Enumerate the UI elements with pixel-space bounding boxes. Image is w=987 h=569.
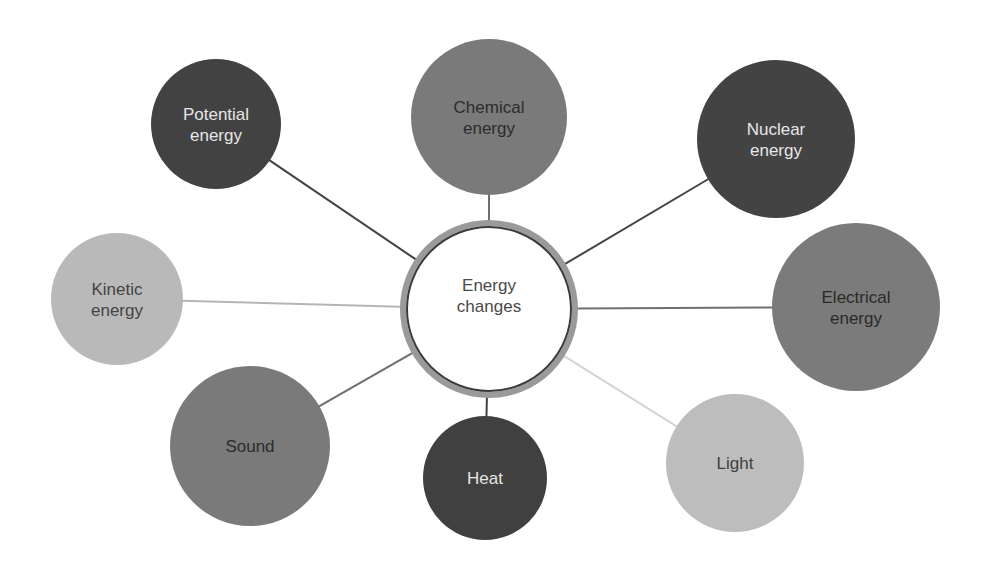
chemical-circle (411, 39, 567, 195)
potential-circle (151, 59, 281, 189)
potential-label-line: energy (190, 126, 242, 145)
kinetic-label-line: energy (91, 301, 143, 320)
center-label-line: Energy (462, 276, 516, 295)
center-node: Energychanges (403, 223, 575, 395)
sound-label-line: Sound (225, 437, 274, 456)
connector-nuclear (565, 178, 710, 264)
energy-changes-diagram: PotentialenergyChemicalenergyNuclearener… (0, 0, 987, 569)
nuclear-circle (697, 60, 855, 218)
connector-electrical (577, 307, 774, 308)
sound-label: Sound (225, 437, 274, 456)
electrical-circle (772, 223, 940, 391)
connector-potential (268, 159, 416, 259)
kinetic-label-line: Kinetic (91, 280, 143, 299)
node-heat: Heat (423, 416, 547, 540)
light-label-line: Light (717, 454, 754, 473)
center-label-line: changes (457, 297, 521, 316)
nuclear-label-line: Nuclear (747, 120, 806, 139)
chemical-label-line: Chemical (454, 98, 525, 117)
node-light: Light (666, 394, 804, 532)
nuclear-label-line: energy (750, 141, 802, 160)
node-electrical: Electricalenergy (772, 223, 940, 391)
connector-light (564, 356, 679, 428)
kinetic-circle (51, 233, 183, 365)
node-sound: Sound (170, 366, 330, 526)
heat-label-line: Heat (467, 469, 503, 488)
node-potential: Potentialenergy (151, 59, 281, 189)
node-kinetic: Kineticenergy (51, 233, 183, 365)
electrical-label-line: Electrical (822, 288, 891, 307)
node-chemical: Chemicalenergy (411, 39, 567, 195)
connector-sound (318, 353, 413, 407)
heat-label: Heat (467, 469, 503, 488)
chemical-label-line: energy (463, 119, 515, 138)
electrical-label-line: energy (830, 309, 882, 328)
connector-kinetic (181, 301, 401, 307)
potential-label-line: Potential (183, 105, 249, 124)
node-nuclear: Nuclearenergy (697, 60, 855, 218)
light-label: Light (717, 454, 754, 473)
